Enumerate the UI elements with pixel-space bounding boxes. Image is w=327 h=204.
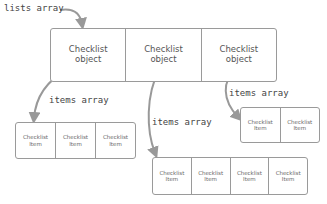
items-array-box-middle: ChecklistItem ChecklistItem ChecklistIte…: [152, 157, 308, 195]
checklist-item-cell: ChecklistItem: [56, 123, 96, 158]
items-array-label-left: items array: [49, 95, 109, 105]
checklist-item-cell: ChecklistItem: [281, 108, 320, 142]
checklist-item-cell: ChecklistItem: [269, 158, 307, 194]
items-middle-arrow: [149, 70, 159, 153]
checklist-item-cell: ChecklistItem: [153, 158, 192, 194]
checklist-item-cell: ChecklistItem: [16, 123, 56, 158]
checklist-object-cell: Checklistobject: [126, 29, 201, 81]
checklist-item-cell: ChecklistItem: [192, 158, 231, 194]
checklist-item-cell: ChecklistItem: [231, 158, 270, 194]
items-array-label-middle: items array: [152, 117, 212, 127]
lists-array-label: lists array: [4, 3, 64, 13]
items-array-box-right: ChecklistItem ChecklistItem: [240, 107, 320, 143]
lists-array-box: Checklistobject Checklistobject Checklis…: [50, 28, 277, 82]
checklist-item-cell: ChecklistItem: [241, 108, 281, 142]
checklist-object-cell: Checklistobject: [51, 29, 126, 81]
items-array-box-left: ChecklistItem ChecklistItem ChecklistIte…: [15, 122, 136, 159]
checklist-item-cell: ChecklistItem: [96, 123, 135, 158]
checklist-object-cell: Checklistobject: [202, 29, 276, 81]
items-array-label-right: items array: [229, 88, 289, 98]
